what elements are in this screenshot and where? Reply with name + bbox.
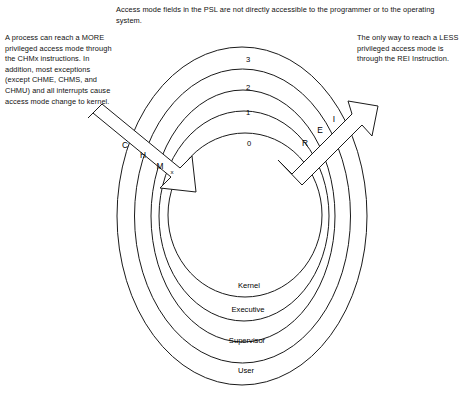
arrow-rei-letter-r: R [302, 138, 308, 148]
ring-number-0: 0 [247, 139, 251, 148]
ring-name-executive: Executive [232, 305, 265, 314]
arrow-chmx-letter-m: M [157, 161, 164, 171]
diagram-page: Access mode fields in the PSL are not di… [0, 0, 470, 393]
arrow-chmx-letter-c: C [122, 140, 128, 150]
arrow-rei-letter-e: E [317, 125, 323, 135]
arrow-rei-letter-i: I [333, 114, 335, 124]
ring-boundary-3-2 [135, 69, 351, 363]
ring-number-1: 1 [246, 108, 250, 117]
arrow-chmx-letter-h: H [140, 150, 146, 160]
ring-number-3: 3 [246, 55, 250, 64]
ring-name-supervisor: Supervisor [229, 336, 266, 345]
ring-name-user: User [238, 366, 255, 375]
ring-number-2: 2 [246, 83, 250, 92]
ring-name-kernel: Kernel [238, 281, 260, 290]
access-mode-rings-diagram: 3 2 1 0 Kernel Executive Supervisor User… [0, 0, 470, 393]
